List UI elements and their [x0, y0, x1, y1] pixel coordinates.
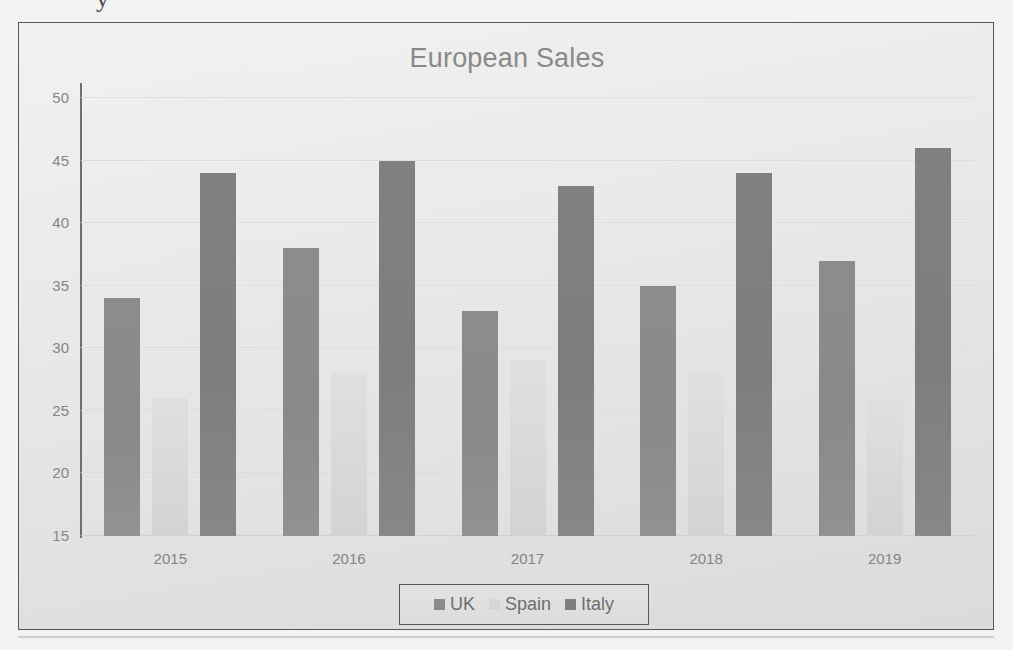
y-axis-tick-label: 45 [52, 151, 69, 168]
x-axis-category-label: 2017 [511, 550, 544, 567]
bar-italy-2019[interactable] [915, 148, 951, 536]
bar-italy-2017[interactable] [558, 186, 594, 536]
y-axis-tick-label: 35 [52, 276, 69, 293]
x-axis-category-label: 2015 [154, 550, 187, 567]
y-axis-tick-label: 40 [52, 214, 69, 231]
bar-uk-2018[interactable] [640, 286, 676, 536]
gridline-50: 50 [81, 97, 974, 98]
clipped-text-glyph: y [96, 0, 109, 14]
legend-entry-spain[interactable]: Spain [489, 594, 551, 615]
bar-uk-2019[interactable] [819, 261, 855, 536]
legend-label: UK [450, 594, 475, 615]
legend-entry-italy[interactable]: Italy [565, 594, 614, 615]
legend-swatch-italy-icon [565, 599, 576, 610]
bar-spain-2015[interactable] [152, 398, 188, 536]
bar-italy-2015[interactable] [200, 173, 236, 536]
clipped-text-above-chart: y [0, 0, 1013, 16]
y-axis-tick-label: 25 [52, 401, 69, 418]
y-axis-tick-label: 30 [52, 339, 69, 356]
legend-label: Italy [581, 594, 614, 615]
page-rule [18, 636, 994, 638]
y-axis-tick-label: 20 [52, 464, 69, 481]
y-axis-tick-label: 50 [52, 89, 69, 106]
chart-title: European Sales [19, 43, 994, 74]
y-axis-tick-label: 15 [52, 527, 69, 544]
bar-spain-2018[interactable] [688, 373, 724, 536]
legend-swatch-spain-icon [489, 599, 500, 610]
legend-label: Spain [505, 594, 551, 615]
x-axis-category-label: 2019 [868, 550, 901, 567]
gridline-45: 45 [81, 160, 974, 161]
x-axis-category-label: 2018 [689, 550, 722, 567]
chart-legend: UKSpainItaly [399, 584, 649, 625]
bar-uk-2016[interactable] [283, 248, 319, 536]
bar-italy-2016[interactable] [379, 161, 415, 536]
bar-spain-2016[interactable] [331, 373, 367, 536]
bar-uk-2015[interactable] [104, 298, 140, 536]
bar-spain-2019[interactable] [867, 398, 903, 536]
bar-uk-2017[interactable] [462, 311, 498, 536]
bar-spain-2017[interactable] [510, 361, 546, 536]
x-axis-category-label: 2016 [332, 550, 365, 567]
legend-swatch-uk-icon [434, 599, 445, 610]
chart-frame: European Sales 1520253035404550201520162… [18, 22, 994, 630]
plot-area: 152025303540455020152016201720182019 [81, 98, 974, 536]
bar-italy-2018[interactable] [736, 173, 772, 536]
legend-entry-uk[interactable]: UK [434, 594, 475, 615]
